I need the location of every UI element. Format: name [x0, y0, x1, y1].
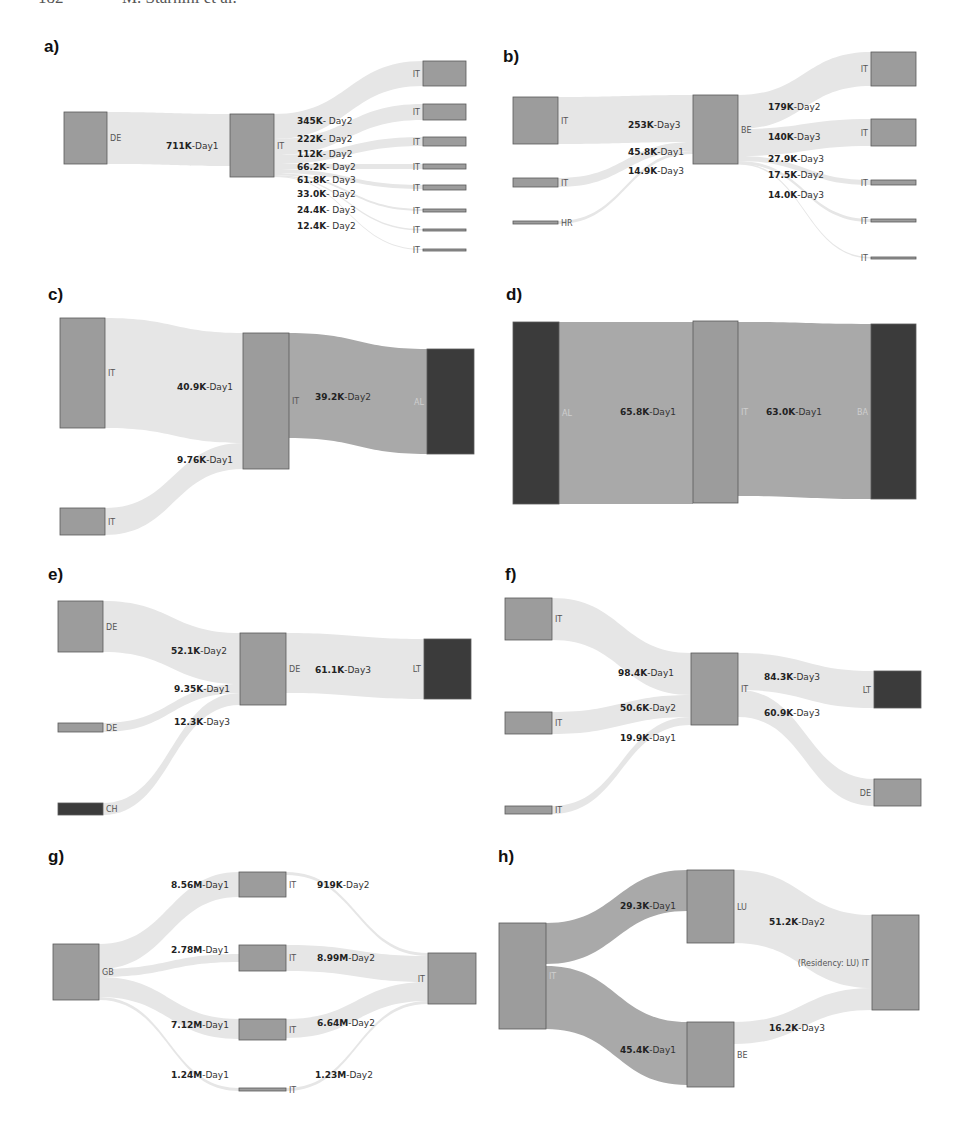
node-label: GB: [102, 968, 114, 977]
node-label: DE: [110, 134, 121, 143]
flow-label: 45.8K-Day1: [628, 147, 684, 157]
node-box: [871, 324, 916, 499]
flow-label: 711K-Day1: [166, 141, 219, 151]
flow-label: 61.1K-Day3: [315, 665, 371, 675]
node-label: IT: [413, 226, 420, 235]
flow-label: 50.6K-Day2: [620, 703, 676, 713]
node-box: [424, 639, 471, 699]
node-label: LT: [413, 665, 421, 674]
node-label: IT: [413, 70, 420, 79]
node-box: [60, 508, 105, 535]
node-label: IT: [413, 184, 420, 193]
node-box: [499, 923, 546, 1029]
node-label: IT: [289, 881, 296, 890]
node-box: [423, 164, 466, 169]
node-box: [871, 119, 916, 146]
sankey-node: IT: [413, 246, 466, 255]
node-label: IT: [292, 397, 299, 406]
flow-band: [734, 988, 872, 1044]
sankey-node: IT: [861, 254, 916, 263]
sankey-node: IT: [413, 226, 466, 235]
flow-label: 98.4K-Day1: [618, 668, 674, 678]
node-label: IT: [108, 518, 115, 527]
node-label: IT: [413, 207, 420, 216]
panel-label: b): [503, 47, 519, 66]
flow-band: [546, 870, 687, 964]
node-label: IT: [555, 806, 562, 815]
node-box: [871, 52, 916, 86]
panel-label: c): [48, 285, 63, 304]
node-box: [687, 1022, 734, 1087]
panel-e: DEDECHDELT52.1K-Day29.35K-Day112.3K-Day3…: [48, 565, 471, 815]
flow-band: [546, 966, 687, 1085]
flow-label: 39.2K-Day2: [315, 392, 371, 402]
flow-band: [103, 601, 240, 684]
panel-c: ITITITAL40.9K-Day19.76K-Day139.2K-Day2c): [48, 285, 474, 535]
node-box: [239, 945, 286, 971]
flow-label: 14.9K-Day3: [628, 166, 684, 176]
node-label: IT: [289, 954, 296, 963]
flow-band: [738, 52, 871, 129]
flow-label: 919K-Day2: [317, 880, 370, 890]
sankey-node: CH: [58, 803, 118, 815]
flow-label: 66.2K- Day2: [297, 162, 356, 172]
node-box: [243, 333, 289, 469]
node-label: IT: [861, 129, 868, 138]
flow-links: [99, 872, 428, 1091]
panel-label: a): [44, 37, 59, 56]
panel-label: d): [506, 285, 522, 304]
node-label: IT: [861, 217, 868, 226]
node-box: [230, 114, 274, 177]
node-box: [423, 104, 466, 120]
flow-label: 29.3K-Day1: [620, 901, 676, 911]
flow-label: 27.9K-Day3: [768, 154, 824, 164]
node-box: [871, 180, 916, 185]
node-box: [874, 779, 921, 806]
flow-label: 179K-Day2: [768, 102, 821, 112]
flow-label: 8.56M-Day1: [171, 880, 229, 890]
flow-label: 17.5K-Day2: [768, 170, 824, 180]
flow-label: 345K- Day2: [297, 116, 352, 126]
sankey-figure: DEITITITITITITITITIT711K-Day1345K- Day22…: [0, 0, 961, 1122]
node-box: [513, 322, 559, 504]
flow-label: 45.4K-Day1: [620, 1045, 676, 1055]
flow-band: [552, 695, 691, 734]
flow-label: 12.3K-Day3: [174, 717, 230, 727]
panel-label: g): [48, 847, 64, 866]
node-box: [58, 601, 103, 652]
flow-label: 1.23M-Day2: [315, 1070, 373, 1080]
node-label: IT: [108, 369, 115, 378]
node-label: IT: [555, 615, 562, 624]
flow-label: 9.35K-Day1: [174, 684, 230, 694]
flow-label: 140K-Day3: [768, 132, 821, 142]
node-box: [423, 249, 466, 251]
node-box: [423, 209, 466, 212]
flow-label: 33.0K- Day2: [297, 189, 356, 199]
flow-band: [286, 982, 428, 1038]
node-box: [60, 318, 105, 428]
node-label: IT: [861, 254, 868, 263]
figure-page: 182 M. Starnini et al. DEITITITITITITITI…: [0, 0, 961, 1122]
node-box: [423, 185, 466, 190]
panel-b: ITITHRBEITITITITIT253K-Day345.8K-Day114.…: [503, 47, 916, 263]
node-box: [513, 97, 558, 144]
flow-label: 19.9K-Day1: [620, 733, 676, 743]
node-box: [874, 671, 921, 708]
node-label: IT: [277, 142, 284, 151]
flow-label: 112K- Day2: [297, 149, 352, 159]
node-box: [871, 257, 916, 259]
panel-label: e): [48, 565, 63, 584]
node-box: [423, 137, 466, 146]
node-label: IT: [741, 408, 748, 417]
flow-label: 65.8K-Day1: [620, 407, 676, 417]
flow-band: [734, 870, 872, 988]
flow-label: 52.1K-Day2: [171, 646, 227, 656]
node-label: IT: [418, 975, 425, 984]
panel-f: ITITITITLTDE98.4K-Day150.6K-Day219.9K-Da…: [505, 565, 921, 815]
flow-label: 60.9K-Day3: [764, 708, 820, 718]
node-box: [505, 598, 552, 640]
node-label: IT: [741, 685, 748, 694]
node-label: DE: [860, 789, 871, 798]
node-label: HR: [561, 219, 573, 228]
panel-label: h): [498, 847, 514, 866]
